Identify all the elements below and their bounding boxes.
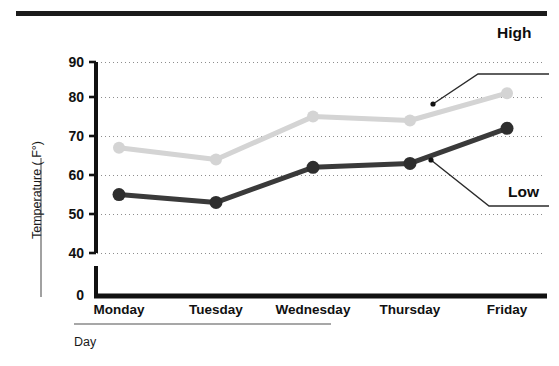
y-tick-label-80: 80 <box>54 90 84 104</box>
x-tick-label-wednesday: Wednesday <box>256 303 370 317</box>
series-high-point-tuesday <box>210 154 222 166</box>
x-tick-label-friday: Friday <box>457 303 557 317</box>
series-high-point-wednesday <box>307 111 319 123</box>
series-low-point-friday <box>501 122 514 135</box>
series-low-point-wednesday <box>307 161 320 174</box>
y-tick-label-90: 90 <box>54 55 84 69</box>
temperature-line-chart: 90 80 70 60 50 40 0 Monday Tuesday Wedne… <box>0 0 559 366</box>
series-low-point-tuesday <box>210 196 223 209</box>
y-tick-label-40: 40 <box>54 246 84 260</box>
y-tick-label-70: 70 <box>54 129 84 143</box>
series-high-point-friday <box>501 87 513 99</box>
series-high <box>113 87 513 165</box>
x-axis-title: Day <box>74 335 96 349</box>
y-tick-label-50: 50 <box>54 207 84 221</box>
series-high-point-thursday <box>404 115 416 127</box>
x-tick-label-monday: Monday <box>69 303 169 317</box>
annotation-low-leader-dot <box>428 157 433 162</box>
series-low-point-monday <box>113 188 126 201</box>
annotation-high-label: High <box>497 24 531 42</box>
series-high-point-monday <box>113 142 125 154</box>
y-axis-title: Temperature ( F°) <box>30 110 44 270</box>
annotation-high-leader-dot <box>430 101 435 106</box>
x-tick-label-tuesday: Tuesday <box>166 303 266 317</box>
annotation-high-leader <box>430 74 549 107</box>
gridlines <box>97 62 545 253</box>
y-tick-label-0: 0 <box>54 288 84 302</box>
series-low <box>113 122 514 209</box>
series-low-point-thursday <box>404 157 417 170</box>
x-tick-label-thursday: Thursday <box>360 303 460 317</box>
y-tick-label-60: 60 <box>54 168 84 182</box>
annotation-low-label: Low <box>508 183 539 201</box>
